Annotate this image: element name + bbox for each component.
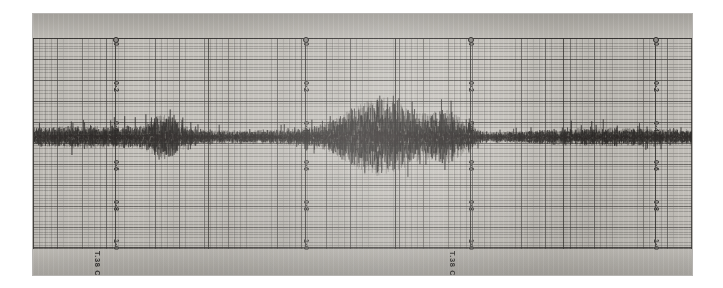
- grid-divider: [208, 38, 209, 249]
- scale-tick-label: 0·2: [303, 81, 310, 92]
- scale-tick-label: 1·0: [653, 239, 660, 250]
- scale-tick-label: 0: [113, 42, 120, 46]
- scale-tick-label: 0: [653, 42, 660, 46]
- scale-tick-label: 0·6: [113, 160, 120, 171]
- scale-tick-label: 0·6: [468, 160, 475, 171]
- scale-tick-label: 1·0: [468, 239, 475, 250]
- scale-tick-label: 0·4: [113, 121, 120, 132]
- scale-tick-label: 0: [468, 42, 475, 46]
- scale-tick-label: 0: [303, 42, 310, 46]
- scale-tick-label: 0·2: [468, 81, 475, 92]
- grid-divider: [33, 38, 34, 249]
- scale-tick-label: 0·2: [653, 81, 660, 92]
- grid-divider: [655, 38, 656, 249]
- scale-tick-label: 0·8: [468, 200, 475, 211]
- grid-divider: [395, 38, 396, 249]
- scale-tick-label: 0·8: [653, 200, 660, 211]
- grid-divider: [470, 38, 471, 249]
- grid-divider: [305, 38, 306, 249]
- trace-identifier-label: T.38 C: [93, 251, 102, 275]
- chart-grid: [33, 38, 692, 249]
- scale-tick-label: 0·8: [303, 200, 310, 211]
- scale-tick-label: 0·4: [468, 121, 475, 132]
- grid-boundary-bottom: [33, 247, 692, 248]
- scale-tick-label: 1·0: [113, 239, 120, 250]
- scale-tick-label: 1·0: [303, 239, 310, 250]
- grid-divider: [691, 38, 692, 249]
- grid-boundary-top: [33, 38, 692, 39]
- grid-divider: [563, 38, 564, 249]
- grid-divider: [115, 38, 116, 249]
- scale-tick-label: 0·4: [653, 121, 660, 132]
- scale-tick-label: 0·4: [303, 121, 310, 132]
- scale-tick-label: 0·2: [113, 81, 120, 92]
- scale-tick-label: 0·8: [113, 200, 120, 211]
- seismogram-photo: 00·20·40·60·81·0T.38 C00·20·40·60·81·000…: [33, 14, 692, 275]
- paper-top-margin: [33, 14, 692, 38]
- scale-tick-label: 0·6: [303, 160, 310, 171]
- paper-bottom-margin: [33, 249, 692, 275]
- trace-identifier-label: T.38 C: [448, 251, 457, 275]
- scale-tick-label: 0·6: [653, 160, 660, 171]
- seismogram-image: 00·20·40·60·81·0T.38 C00·20·40·60·81·000…: [0, 0, 723, 288]
